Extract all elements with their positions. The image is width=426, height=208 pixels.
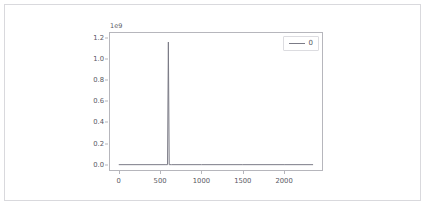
x-tick-label: 1500 — [234, 177, 251, 185]
y-tick-mark — [105, 122, 108, 123]
x-tick-label: 500 — [154, 177, 167, 185]
legend-line-swatch — [289, 43, 305, 44]
y-tick-mark — [105, 58, 108, 59]
y-tick-mark — [105, 164, 108, 165]
y-axis-offset-text: 1e9 — [110, 22, 123, 30]
x-tick-label: 1000 — [193, 177, 210, 185]
series-line-chart — [110, 33, 322, 170]
y-tick-mark — [105, 37, 108, 38]
x-tick-label: 0 — [117, 177, 121, 185]
plot-area[interactable]: 0 — [109, 32, 323, 171]
plot-canvas — [110, 33, 322, 170]
x-tick-label: 2000 — [275, 177, 292, 185]
x-tick-mark — [160, 171, 161, 174]
legend-label-0: 0 — [309, 40, 313, 47]
series-line — [119, 42, 313, 165]
x-tick-mark — [284, 171, 285, 174]
figure-frame: 1e9 0.00.20.40.60.81.01.2 0 050010001500… — [4, 4, 421, 201]
legend[interactable]: 0 — [283, 36, 319, 51]
x-tick-mark — [119, 171, 120, 174]
x-tick-mark — [243, 171, 244, 174]
y-tick-mark — [105, 143, 108, 144]
y-axis-tick-labels: 0.00.20.40.60.81.01.2 — [79, 32, 107, 171]
y-tick-mark — [105, 80, 108, 81]
y-tick-mark — [105, 101, 108, 102]
x-tick-mark — [201, 171, 202, 174]
